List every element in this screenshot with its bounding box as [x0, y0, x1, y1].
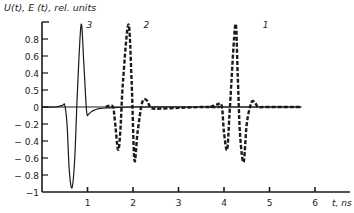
- axes: 0.80.60.40.50− 0.2− 0.4− 0.6− 0.8−112345…: [14, 22, 352, 208]
- y-tick-label: − 0.8: [14, 171, 39, 181]
- x-tick-label: 5: [267, 198, 273, 208]
- x-tick-label: 1: [85, 198, 91, 208]
- y-tick-label: − 0.4: [14, 137, 39, 147]
- x-tick-label: 3: [176, 198, 182, 208]
- y-tick-label: − 0.2: [14, 120, 39, 130]
- x-tick-label: 4: [221, 198, 227, 208]
- curve-label-2: 2: [143, 20, 149, 30]
- line-chart: 0.80.60.40.50− 0.2− 0.4− 0.6− 0.8−112345…: [0, 0, 354, 213]
- curve-label-1: 1: [263, 20, 269, 30]
- series-1-line: [210, 24, 301, 162]
- x-tick-label: 6: [312, 198, 318, 208]
- y-tick-label: 0.8: [25, 35, 40, 45]
- y-tick-label: 0.6: [25, 52, 40, 62]
- series-2-line: [106, 25, 220, 162]
- x-axis-title: t, ns: [332, 198, 352, 208]
- y-tick-label: − 0.6: [14, 154, 39, 164]
- y-tick-label: 0.4: [25, 69, 40, 79]
- y-tick-label: 0.5: [25, 86, 39, 96]
- y-tick-label: −1: [26, 188, 39, 198]
- annotations: 321: [87, 20, 269, 30]
- curve-label-3: 3: [87, 20, 93, 30]
- y-tick-label: 0: [33, 103, 39, 113]
- x-tick-label: 2: [130, 198, 136, 208]
- series-group: [42, 24, 301, 188]
